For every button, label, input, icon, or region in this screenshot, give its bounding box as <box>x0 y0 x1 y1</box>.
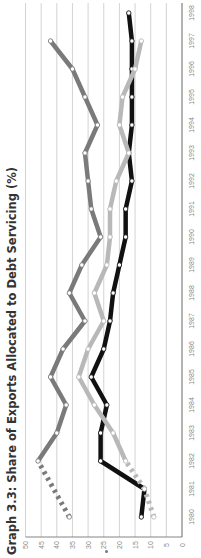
series-segment <box>110 181 116 209</box>
value-tick-label: 15 <box>132 541 139 549</box>
value-tick-label: 20 <box>116 541 123 549</box>
page-mark <box>105 550 108 553</box>
data-point-marker <box>98 431 102 435</box>
series-segment <box>141 489 144 517</box>
value-tick-label: 10 <box>147 541 154 549</box>
series-segment <box>104 321 110 349</box>
year-tick-label: 1986 <box>188 341 195 357</box>
data-point-marker <box>95 123 99 127</box>
year-tick-label: 1981 <box>188 481 195 497</box>
data-point-marker <box>92 403 96 407</box>
data-point-marker <box>108 235 112 239</box>
series-segment <box>85 97 98 125</box>
value-tick-label: 0 <box>179 543 186 547</box>
data-point-marker <box>89 375 93 379</box>
data-point-marker <box>36 459 40 463</box>
data-point-marker <box>133 67 137 71</box>
data-point-marker <box>117 263 121 267</box>
year-tick-label: 1993 <box>188 145 195 161</box>
year-tick-label: 1983 <box>188 425 195 441</box>
year-tick-label: 1994 <box>188 117 195 133</box>
year-tick-label: 1998 <box>188 5 195 21</box>
data-point-marker <box>123 459 127 463</box>
series-segment <box>51 377 67 405</box>
data-point-marker <box>108 207 112 211</box>
series-segment <box>88 321 104 349</box>
series-segment <box>119 125 128 153</box>
data-point-marker <box>142 487 146 491</box>
value-tick-label: 25 <box>100 541 107 549</box>
series-segment <box>110 293 113 321</box>
series-segment <box>94 265 107 293</box>
data-point-marker <box>61 347 65 351</box>
series-segment <box>94 293 103 321</box>
data-series <box>36 11 156 519</box>
year-tick-label: 1984 <box>188 397 195 413</box>
series-segment <box>116 153 129 181</box>
data-point-marker <box>83 319 87 323</box>
data-point-marker <box>102 319 106 323</box>
data-point-marker <box>67 291 71 295</box>
series-segment <box>119 97 122 125</box>
data-point-marker <box>111 431 115 435</box>
data-point-marker <box>86 179 90 183</box>
series-segment <box>57 405 66 433</box>
gridlines <box>26 3 167 537</box>
data-point-marker <box>127 11 131 15</box>
value-tick-label: 35 <box>69 541 76 549</box>
data-point-marker <box>152 515 156 519</box>
series-segment <box>91 349 104 377</box>
data-point-marker <box>83 151 87 155</box>
data-point-marker <box>120 95 124 99</box>
value-tick-label: 50 <box>22 541 29 549</box>
data-point-marker <box>89 207 93 211</box>
year-tick-label: 1990 <box>188 229 195 245</box>
year-tick-label: 1987 <box>188 313 195 329</box>
year-tick-label: 1989 <box>188 257 195 273</box>
series-segment <box>119 237 125 265</box>
data-point-marker <box>127 151 131 155</box>
series-segment <box>63 321 85 349</box>
series-segment <box>38 461 69 517</box>
series-segment <box>88 181 91 209</box>
series-segment <box>51 41 73 69</box>
series-segment <box>113 265 119 293</box>
data-point-marker <box>130 123 134 127</box>
year-tick-label: 1991 <box>188 201 195 217</box>
data-point-marker <box>114 179 118 183</box>
series-segment <box>129 13 132 41</box>
series-dark-gray <box>36 39 103 519</box>
data-point-marker <box>77 375 81 379</box>
data-point-marker <box>48 39 52 43</box>
value-tick-labels: 05101520253035404550 <box>22 541 186 549</box>
year-tick-label: 1988 <box>188 285 195 301</box>
series-segment <box>79 349 88 377</box>
data-point-marker <box>80 263 84 267</box>
value-tick-label: 40 <box>53 541 60 549</box>
value-tick-label: 5 <box>163 543 170 547</box>
year-tick-label: 1995 <box>188 89 195 105</box>
series-segment <box>69 293 85 321</box>
year-tick-label: 1992 <box>188 173 195 189</box>
series-segment <box>107 237 110 265</box>
data-point-marker <box>130 179 134 183</box>
data-point-marker <box>86 347 90 351</box>
data-point-marker <box>123 235 127 239</box>
data-point-marker <box>102 347 106 351</box>
data-point-marker <box>92 291 96 295</box>
data-point-marker <box>108 319 112 323</box>
series-segment <box>91 209 100 237</box>
data-point-marker <box>83 95 87 99</box>
data-point-marker <box>105 403 109 407</box>
data-point-marker <box>64 403 68 407</box>
data-point-marker <box>67 515 71 519</box>
line-chart: Graph 3.3: Share of Exports Allocated to… <box>0 0 201 558</box>
data-point-marker <box>130 39 134 43</box>
series-segment <box>126 181 132 209</box>
year-tick-label: 1982 <box>188 453 195 469</box>
data-point-marker <box>48 375 52 379</box>
data-point-marker <box>105 263 109 267</box>
data-point-marker <box>70 67 74 71</box>
series-segment <box>69 265 82 293</box>
data-point-marker <box>139 515 143 519</box>
